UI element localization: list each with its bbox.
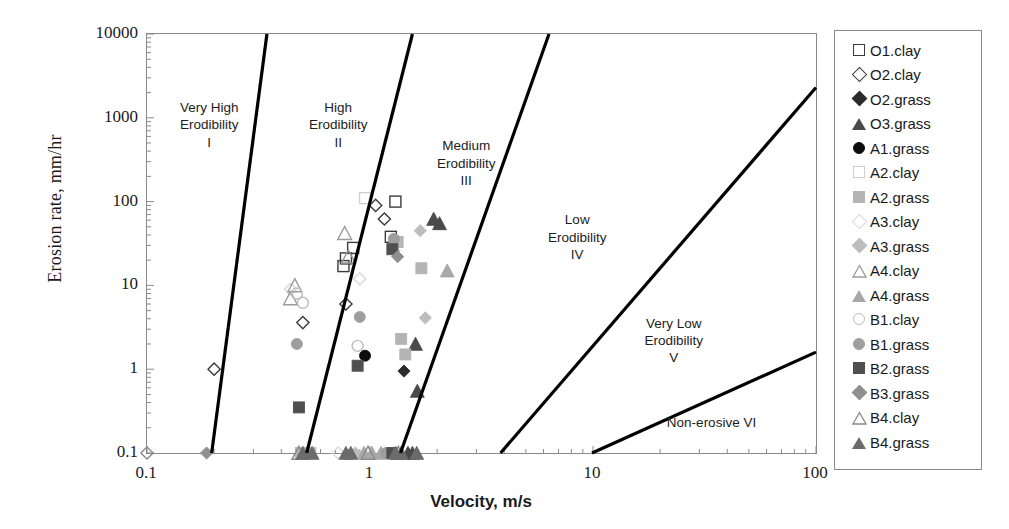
region-label-vi: Non-erosive VI <box>652 414 772 431</box>
legend-item-label: B4.clay <box>870 409 919 426</box>
diamond-marker-icon <box>851 238 868 255</box>
square-marker-icon <box>851 360 868 377</box>
legend-item[interactable]: O2.grass <box>851 87 981 112</box>
boundary-line-iv-v <box>501 87 816 453</box>
data-point <box>440 264 454 277</box>
region-label-v: Very Low Erodibility V <box>614 315 734 367</box>
marker-shape <box>851 91 867 107</box>
x-tick-label: 10 <box>552 464 632 481</box>
y-tick-label: 1000 <box>68 108 138 125</box>
marker-shape <box>852 412 866 424</box>
data-point <box>396 333 407 344</box>
diamond-marker-icon <box>851 66 868 83</box>
marker-shape <box>853 338 865 350</box>
legend-item[interactable]: A4.clay <box>851 259 981 284</box>
series-b3-grass <box>200 251 403 459</box>
triangle-marker-icon <box>851 434 868 451</box>
legend-item-label: B2.grass <box>870 360 929 377</box>
x-axis-title: Velocity, m/s <box>146 492 816 512</box>
plot-canvas <box>147 34 816 453</box>
axis-ticks <box>147 34 816 453</box>
data-point <box>291 338 302 349</box>
data-point <box>208 363 220 375</box>
chart-figure: Erosion rate, mm/hr 0.1110100100010000 0… <box>0 0 1009 529</box>
legend-item-label: B1.clay <box>870 311 919 328</box>
marker-shape <box>852 437 866 449</box>
erodibility-boundary-lines <box>212 34 816 453</box>
data-point <box>398 365 410 377</box>
y-tick-label: 0.1 <box>68 443 138 460</box>
legend-item[interactable]: A1.grass <box>851 136 981 161</box>
legend-item[interactable]: O3.grass <box>851 112 981 137</box>
marker-shape <box>853 191 865 203</box>
region-label-ii: High Erodibility II <box>278 99 398 151</box>
data-point <box>409 337 423 350</box>
legend-item-label: A4.grass <box>870 287 929 304</box>
marker-shape <box>851 238 867 254</box>
legend-item-label: B4.grass <box>870 434 929 451</box>
data-point <box>338 226 352 239</box>
data-point <box>352 340 363 351</box>
legend-item[interactable]: B1.clay <box>851 308 981 333</box>
data-point <box>352 360 363 371</box>
diamond-marker-icon <box>851 385 868 402</box>
legend-item[interactable]: A2.grass <box>851 185 981 210</box>
legend-item[interactable]: B4.clay <box>851 406 981 431</box>
region-label-iv: Low Erodibility IV <box>517 211 637 263</box>
data-point <box>390 196 401 207</box>
legend-item-label: O2.grass <box>870 91 931 108</box>
data-point <box>360 350 371 361</box>
data-point <box>419 312 431 324</box>
data-point <box>416 263 427 274</box>
legend-item[interactable]: A3.clay <box>851 210 981 235</box>
data-point <box>354 273 366 285</box>
boundary-line-i-ii <box>212 34 267 453</box>
legend-item[interactable]: B2.grass <box>851 357 981 382</box>
data-point <box>293 402 304 413</box>
series-b2-grass <box>293 244 397 459</box>
legend-item[interactable]: A4.grass <box>851 283 981 308</box>
series-a4-grass <box>357 264 454 459</box>
region-label-iii: Medium Erodibility III <box>406 137 526 189</box>
legend-item-label: B1.grass <box>870 336 929 353</box>
diamond-marker-icon <box>851 91 868 108</box>
y-tick-label: 100 <box>68 192 138 209</box>
legend-item[interactable]: B3.grass <box>851 381 981 406</box>
square-marker-icon <box>851 164 868 181</box>
triangle-marker-icon <box>851 287 868 304</box>
legend-item-label: A2.grass <box>870 189 929 206</box>
legend-item[interactable]: B4.grass <box>851 430 981 455</box>
legend: O1.clayO2.clayO2.grassO3.grassA1.grassA2… <box>834 30 982 470</box>
legend-item[interactable]: O1.clay <box>851 38 981 63</box>
legend-item-label: A3.clay <box>870 213 919 230</box>
data-point <box>297 297 308 308</box>
series-a1-grass <box>360 350 371 361</box>
legend-item-label: O3.grass <box>870 115 931 132</box>
legend-item[interactable]: O2.clay <box>851 63 981 88</box>
legend-item-label: B3.grass <box>870 385 929 402</box>
legend-item-label: O1.clay <box>870 42 921 59</box>
boundary-line-v-vi <box>592 352 816 453</box>
data-point <box>284 283 296 295</box>
legend-item-label: A2.clay <box>870 164 919 181</box>
data-point-markers <box>200 193 454 460</box>
circle-marker-icon <box>851 336 868 353</box>
marker-shape <box>853 313 865 325</box>
data-point <box>354 311 365 322</box>
square-marker-icon <box>851 189 868 206</box>
data-point <box>297 316 309 328</box>
square-marker-icon <box>851 42 868 59</box>
series-b1-grass <box>291 233 399 458</box>
triangle-marker-icon <box>851 115 868 132</box>
marker-shape <box>853 166 865 178</box>
series-o3-grass <box>401 212 446 459</box>
marker-shape <box>852 290 866 302</box>
y-axis-title: Erosion rate, mm/hr <box>45 59 66 359</box>
legend-item[interactable]: B1.grass <box>851 332 981 357</box>
legend-item[interactable]: A2.clay <box>851 161 981 186</box>
marker-shape <box>853 362 865 374</box>
data-point <box>414 225 426 237</box>
legend-item-label: O2.clay <box>870 66 921 83</box>
marker-shape <box>852 265 866 277</box>
legend-item[interactable]: A3.grass <box>851 234 981 259</box>
